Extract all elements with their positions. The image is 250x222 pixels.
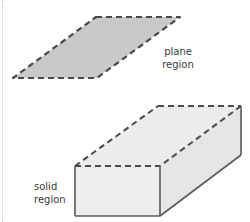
plane-region-shape [13,17,180,78]
solid-label-line2: region [34,193,66,206]
plane-region-label: plane region [158,45,198,71]
solid-region-label: solid region [34,180,66,206]
solid-label-line1: solid [34,180,66,193]
plane-label-line2: region [158,58,198,71]
plane-label-line1: plane [158,45,198,58]
solid-front-face [75,166,160,216]
